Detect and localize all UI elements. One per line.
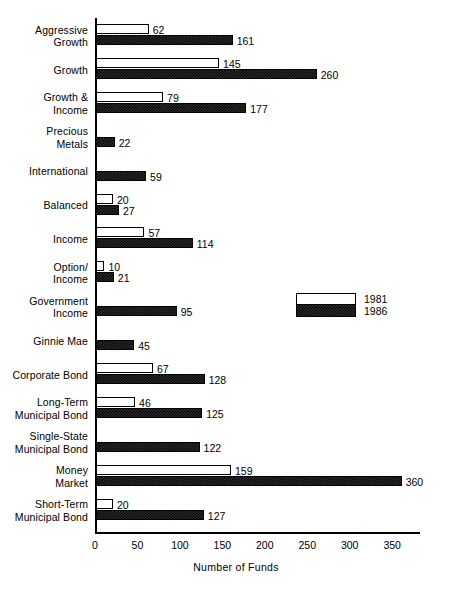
bar-1986 xyxy=(96,103,246,113)
bar-value-1986: 27 xyxy=(123,206,135,216)
category-label: Growth & Income xyxy=(0,91,88,116)
bar-value-1986: 114 xyxy=(197,239,214,249)
category-label: Precious Metals xyxy=(0,125,88,150)
x-tick-label: 150 xyxy=(214,539,232,551)
bar-1986 xyxy=(96,205,119,215)
bar-value-1986: 260 xyxy=(321,70,339,80)
bar-1981 xyxy=(96,397,135,407)
bar-value-1986: 161 xyxy=(237,36,255,46)
bar-value-1981: 10 xyxy=(108,262,120,272)
bar-value-1986: 177 xyxy=(250,104,268,114)
x-tick-label: 350 xyxy=(383,539,401,551)
bar-1986 xyxy=(96,272,114,282)
legend-label-1981: 1981 xyxy=(364,293,387,305)
x-tick-label: 300 xyxy=(341,539,359,551)
bar-1981 xyxy=(96,92,163,102)
bar-value-1986: 21 xyxy=(118,273,130,283)
category-label: Ginnie Mae xyxy=(0,335,88,348)
bar-1986 xyxy=(96,69,317,79)
bar-value-1986: 128 xyxy=(209,375,227,385)
bar-value-1986: 45 xyxy=(138,341,150,351)
bar-value-1981: 145 xyxy=(223,59,241,69)
category-label: Single-State Municipal Bond xyxy=(0,430,88,455)
bar-1981 xyxy=(96,24,149,34)
category-label: Short-Term Municipal Bond xyxy=(0,498,88,523)
category-label: Income xyxy=(0,233,88,246)
bar-value-1986: 360 xyxy=(406,477,424,487)
bar-1981 xyxy=(96,227,144,237)
bar-value-1981: 159 xyxy=(235,466,253,476)
bar-value-1981: 62 xyxy=(153,25,165,35)
legend-swatch-1981 xyxy=(296,293,356,305)
bar-1981 xyxy=(96,363,153,373)
category-label: Corporate Bond xyxy=(0,369,88,382)
category-label: Government Income xyxy=(0,295,88,320)
legend-label-1986: 1986 xyxy=(364,305,387,317)
category-label: Balanced xyxy=(0,199,88,212)
bar-1986 xyxy=(96,137,115,147)
bar-1986 xyxy=(96,510,204,520)
bar-value-1986: 127 xyxy=(208,511,226,521)
bar-value-1986: 22 xyxy=(119,138,131,148)
category-label: Growth xyxy=(0,64,88,77)
bar-value-1981: 67 xyxy=(157,364,169,374)
bar-1981 xyxy=(96,194,113,204)
bar-1986 xyxy=(96,35,233,45)
bar-value-1986: 95 xyxy=(181,307,193,317)
category-label: Money Market xyxy=(0,464,88,489)
x-axis-line xyxy=(95,532,420,534)
bar-value-1986: 59 xyxy=(150,172,162,182)
bar-1981 xyxy=(96,499,113,509)
bar-value-1981: 20 xyxy=(117,500,129,510)
bar-1986 xyxy=(96,442,200,452)
category-label: Option/ Income xyxy=(0,261,88,286)
bar-value-1981: 20 xyxy=(117,195,129,205)
bar-value-1981: 79 xyxy=(167,93,179,103)
x-axis-title-text: Number of Funds xyxy=(193,561,279,573)
category-label: Aggressive Growth xyxy=(0,24,88,49)
bar-1986 xyxy=(96,476,402,486)
category-label: International xyxy=(0,165,88,178)
x-tick-label: 0 xyxy=(92,539,98,551)
bar-1986 xyxy=(96,408,202,418)
bar-1986 xyxy=(96,238,193,248)
x-tick-label: 250 xyxy=(298,539,316,551)
bar-1986 xyxy=(96,171,146,181)
bar-value-1986: 125 xyxy=(206,409,224,419)
bar-value-1986: 122 xyxy=(204,443,222,453)
x-axis-title: Number of Funds xyxy=(0,561,454,573)
bar-value-1981: 57 xyxy=(148,228,160,238)
bar-1986 xyxy=(96,374,205,384)
x-tick-label: 100 xyxy=(171,539,189,551)
bar-value-1981: 46 xyxy=(139,398,151,408)
bar-1981 xyxy=(96,58,219,68)
x-tick-label: 50 xyxy=(132,539,144,551)
legend-swatch-1986 xyxy=(296,305,356,317)
x-tick-label: 200 xyxy=(256,539,274,551)
category-label: Long-Term Municipal Bond xyxy=(0,396,88,421)
bar-1986 xyxy=(96,340,134,350)
bar-chart: Aggressive Growth62161Growth145260Growth… xyxy=(0,0,454,590)
bar-1981 xyxy=(96,465,231,475)
bar-1981 xyxy=(96,261,104,271)
bar-1986 xyxy=(96,306,177,316)
